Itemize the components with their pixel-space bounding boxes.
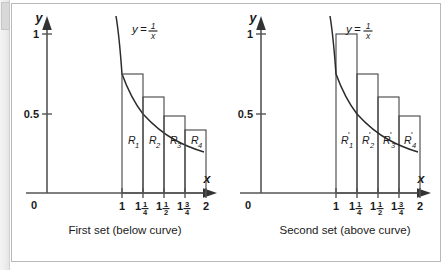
left-rect-3: [164, 116, 185, 193]
svg-text:': ': [411, 130, 413, 140]
right-curve-1-over-x: [330, 16, 418, 152]
svg-text:': ': [390, 130, 392, 140]
scrollbar-track[interactable]: [0, 0, 10, 270]
svg-text:1: 1: [151, 21, 156, 31]
svg-text:1: 1: [349, 141, 353, 150]
left-y-tick-label-1: 1: [33, 28, 39, 40]
svg-text:y: y: [345, 23, 353, 35]
svg-text:4: 4: [198, 141, 202, 150]
right-x-tick-label-1: 1: [333, 200, 339, 212]
svg-text:1: 1: [391, 200, 397, 212]
svg-text:1: 1: [135, 141, 139, 150]
riemann-sum-figure: y x 1 0.5 0 R 1 R 2: [12, 4, 442, 263]
svg-text:2: 2: [155, 141, 161, 150]
svg-text:4: 4: [143, 208, 148, 217]
left-curve-1-over-x: [116, 16, 204, 152]
left-y-tick-label-half: 0.5: [24, 108, 39, 120]
left-equation-label: y = 1 x: [131, 21, 158, 41]
left-x-tick-label-1: 1: [119, 200, 125, 212]
svg-text:1: 1: [370, 200, 376, 212]
svg-text:3: 3: [177, 141, 182, 150]
right-y-tick-label-1: 1: [247, 28, 253, 40]
right-y-axis-label: y: [249, 11, 258, 25]
left-rect-label-2: R 2: [149, 134, 161, 150]
right-rect-label-1: R ' 1: [341, 130, 353, 150]
svg-text:4: 4: [357, 208, 362, 217]
right-x-axis-label: x: [417, 172, 426, 186]
right-equation-label: y = 1 x: [345, 21, 373, 41]
svg-text:1: 1: [156, 200, 162, 212]
right-x-tick-label-1-75: 1 3 4: [391, 200, 405, 217]
left-rect-label-1: R 1: [128, 134, 139, 150]
svg-text:4: 4: [399, 208, 404, 217]
svg-text:1: 1: [349, 200, 355, 212]
svg-text:=: =: [140, 23, 147, 35]
left-x-tick-label-2: 2: [203, 200, 209, 212]
svg-text:x: x: [365, 31, 371, 41]
left-y-axis: [42, 16, 52, 193]
svg-text:3: 3: [391, 141, 396, 150]
left-x-tick-label-1-25: 1 1 4: [135, 200, 149, 217]
svg-text:1: 1: [135, 200, 141, 212]
svg-text:2: 2: [369, 141, 375, 150]
right-y-tick-label-half: 0.5: [238, 108, 253, 120]
left-origin-label: 0: [31, 199, 37, 211]
left-x-axis-label: x: [203, 172, 212, 186]
scrollbar-thumb[interactable]: [1, 2, 10, 30]
right-y-axis: [256, 16, 266, 193]
right-panel: y x 1 0.5 0 R ' 1 R: [238, 11, 431, 236]
svg-text:': ': [348, 130, 350, 140]
left-panel-caption: First set (below curve): [68, 224, 181, 236]
left-rect-label-3: R 3: [170, 134, 182, 150]
svg-text:': ': [369, 130, 371, 140]
right-panel-caption: Second set (above curve): [279, 224, 410, 236]
left-panel: y x 1 0.5 0 R 1 R 2: [24, 11, 217, 236]
right-rect-label-2: R ' 2: [362, 130, 375, 150]
left-x-tick-label-1-75: 1 3 4: [177, 200, 191, 217]
right-rect-label-4: R ' 4: [404, 130, 416, 150]
svg-text:2: 2: [378, 208, 382, 217]
svg-text:4: 4: [412, 141, 416, 150]
left-y-axis-label: y: [35, 11, 44, 25]
right-x-tick-label-1-25: 1 1 4: [349, 200, 363, 217]
svg-text:4: 4: [185, 208, 190, 217]
svg-text:2: 2: [164, 208, 168, 217]
figure-panel: y x 1 0.5 0 R 1 R 2: [11, 3, 441, 262]
right-rect-label-3: R ' 3: [383, 130, 396, 150]
svg-text:=: =: [354, 23, 361, 35]
right-origin-label: 0: [245, 199, 251, 211]
right-x-tick-label-2: 2: [417, 200, 423, 212]
right-rect-1: [336, 34, 357, 193]
right-x-tick-label-1-5: 1 1 2: [370, 200, 384, 217]
svg-text:x: x: [150, 31, 156, 41]
left-x-tick-label-1-5: 1 1 2: [156, 200, 170, 217]
svg-text:y: y: [131, 23, 139, 35]
svg-text:1: 1: [366, 21, 371, 31]
svg-text:1: 1: [177, 200, 183, 212]
